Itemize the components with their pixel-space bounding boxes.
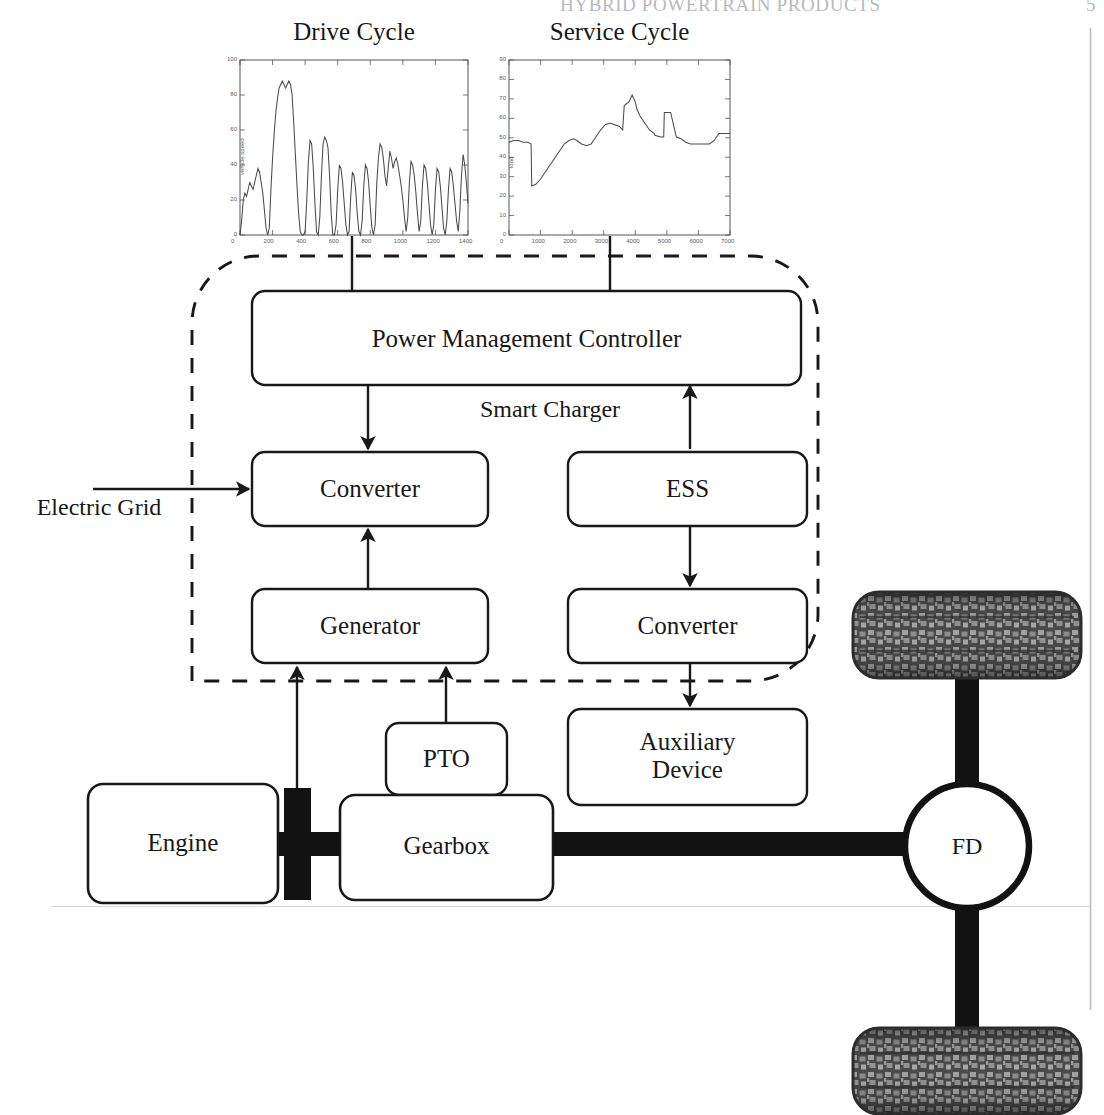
- block-power-management-controller[interactable]: [252, 291, 801, 385]
- service-cycle-ytick: 0: [495, 231, 506, 237]
- block-generator[interactable]: [252, 589, 488, 663]
- drive-cycle-ytick: 100: [226, 56, 237, 62]
- page-number: 5: [1086, 0, 1096, 16]
- service-cycle-ytick: 10: [495, 212, 506, 218]
- service-cycle-ylabel: load: [508, 157, 514, 168]
- block-converter-grid[interactable]: [252, 452, 488, 526]
- drive-cycle-ytick: 40: [226, 161, 237, 167]
- block-final-drive[interactable]: [905, 784, 1029, 908]
- service-cycle-xtick: 6000: [689, 238, 702, 244]
- service-cycle-xtick: 1000: [532, 238, 545, 244]
- drive-cycle-xtick: 200: [264, 238, 274, 244]
- drive-cycle-ytick: 80: [226, 91, 237, 97]
- block-converter-aux[interactable]: [568, 589, 807, 663]
- chart-drive-cycle-frame: [240, 60, 468, 235]
- service-cycle-xtick: 4000: [626, 238, 639, 244]
- drive-cycle-xtick: 1200: [426, 238, 439, 244]
- drive-cycle-xtick: 800: [361, 238, 371, 244]
- running-head: HYBRID POWERTRAIN PRODUCTS: [560, 0, 881, 16]
- drive-cycle-xtick: 1400: [459, 238, 472, 244]
- clutch-block: [284, 788, 311, 900]
- service-cycle-ytick: 70: [495, 95, 506, 101]
- powertrain-schematic: [0, 0, 1104, 1115]
- service-cycle-ytick: 40: [495, 153, 506, 159]
- service-cycle-xtick: 7000: [721, 238, 734, 244]
- service-cycle-xtick: 0: [500, 238, 503, 244]
- wheel-rear: [853, 1028, 1081, 1114]
- block-engine[interactable]: [88, 784, 278, 903]
- diagram-canvas: HYBRID POWERTRAIN PRODUCTS 5 Drive Cycle…: [0, 0, 1104, 1115]
- drive-cycle-xtick: 600: [329, 238, 339, 244]
- drive-cycle-ytick: 20: [226, 196, 237, 202]
- drive-cycle-ytick: 0: [226, 231, 237, 237]
- service-cycle-ytick: 80: [495, 75, 506, 81]
- block-auxiliary-device[interactable]: [568, 709, 807, 805]
- service-cycle-ytick: 60: [495, 114, 506, 120]
- drive-cycle-xtick: 1000: [394, 238, 407, 244]
- drive-cycle-ylabel: vehicle speed: [239, 138, 245, 175]
- drive-cycle-ytick: 60: [226, 126, 237, 132]
- chart-service-cycle-frame: [509, 60, 730, 235]
- drive-cycle-xtick: 0: [231, 238, 234, 244]
- wheel-front: [853, 592, 1081, 678]
- service-cycle-xtick: 3000: [595, 238, 608, 244]
- service-cycle-ytick: 30: [495, 173, 506, 179]
- service-cycle-ytick: 20: [495, 192, 506, 198]
- block-ess[interactable]: [568, 452, 807, 526]
- service-cycle-ytick: 90: [495, 56, 506, 62]
- drive-cycle-xtick: 400: [296, 238, 306, 244]
- block-pto[interactable]: [386, 723, 507, 795]
- block-gearbox[interactable]: [340, 795, 553, 900]
- service-cycle-xtick: 5000: [658, 238, 671, 244]
- service-cycle-ytick: 50: [495, 134, 506, 140]
- service-cycle-xtick: 2000: [563, 238, 576, 244]
